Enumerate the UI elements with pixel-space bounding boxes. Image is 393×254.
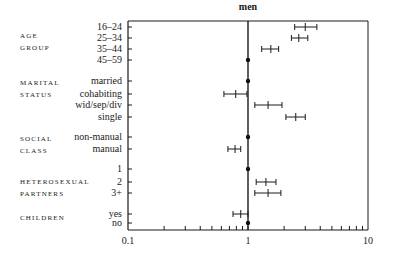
reference-point: [246, 58, 250, 62]
reference-point: [246, 221, 250, 225]
forest-plot: [0, 0, 393, 254]
reference-point: [246, 167, 250, 171]
reference-point: [246, 79, 250, 83]
reference-point: [246, 135, 250, 139]
